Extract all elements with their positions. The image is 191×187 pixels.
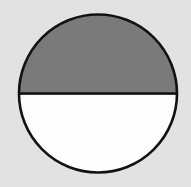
figure-canvas xyxy=(0,0,191,187)
half-shaded-circle-diagram xyxy=(0,0,191,187)
